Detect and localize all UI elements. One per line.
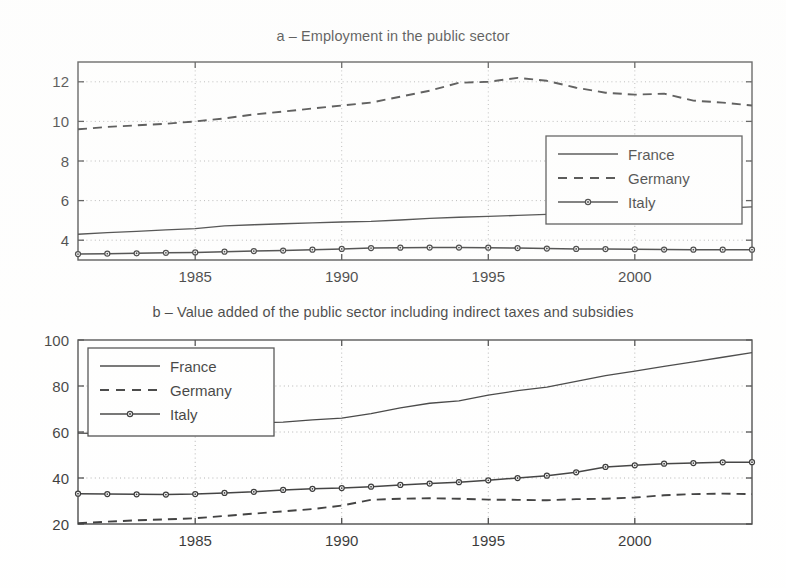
x-tick-label: 1995 [472, 532, 505, 549]
series-marker-dot [253, 491, 255, 493]
panel-b-svg: 204060801001985199019952000FranceGermany… [0, 326, 786, 576]
series-marker-dot [370, 486, 372, 488]
series-marker-dot [692, 462, 694, 464]
series-marker-dot [575, 471, 577, 473]
panel-b-plot: 204060801001985199019952000FranceGermany… [0, 326, 786, 576]
series-marker-dot [106, 493, 108, 495]
series-marker-dot [282, 489, 284, 491]
legend: FranceGermanyItaly [88, 348, 274, 436]
series-marker-dot [399, 247, 401, 249]
series-marker-dot [194, 493, 196, 495]
series-marker-dot [517, 477, 519, 479]
figure-container: a – Employment in the public sector 4681… [0, 0, 786, 588]
y-tick-label: 4 [61, 232, 69, 249]
series-marker-dot [282, 250, 284, 252]
y-tick-label: 6 [61, 192, 69, 209]
series-marker-dot [312, 488, 314, 490]
legend-label-germany: Germany [628, 170, 690, 187]
series-marker-dot [341, 248, 343, 250]
panel-b-title: b – Value added of the public sector inc… [0, 304, 786, 320]
series-marker-dot [429, 483, 431, 485]
x-tick-label: 2000 [618, 268, 651, 285]
series-marker-dot [165, 252, 167, 254]
y-tick-label: 8 [61, 153, 69, 170]
series-marker-dot [546, 248, 548, 250]
x-tick-label: 1990 [325, 532, 358, 549]
y-tick-label: 100 [44, 332, 69, 349]
series-marker-dot [136, 493, 138, 495]
series-marker-dot [136, 252, 138, 254]
x-tick-label: 1985 [179, 268, 212, 285]
legend: FranceGermanyItaly [546, 136, 742, 224]
y-tick-label: 80 [52, 378, 69, 395]
x-tick-label: 2000 [618, 532, 651, 549]
legend-label-italy: Italy [170, 406, 198, 423]
y-tick-label: 60 [52, 424, 69, 441]
series-line-italy [78, 248, 752, 255]
series-marker-dot [312, 249, 314, 251]
series-marker-dot [224, 251, 226, 253]
series-marker-dot [458, 247, 460, 249]
series-marker-dot [751, 249, 753, 251]
series-marker-dot [722, 461, 724, 463]
series-marker-dot [165, 494, 167, 496]
series-marker-dot [106, 253, 108, 255]
legend-label-france: France [170, 358, 217, 375]
series-marker-dot [663, 249, 665, 251]
series-marker-dot [341, 487, 343, 489]
x-tick-label: 1990 [325, 268, 358, 285]
y-tick-label: 20 [52, 516, 69, 533]
panel-a-svg: 46810121985199019952000FranceGermanyItal… [0, 48, 786, 288]
series-marker-dot [546, 475, 548, 477]
series-marker-dot [634, 464, 636, 466]
series-marker-dot [399, 484, 401, 486]
series-marker-dot [429, 247, 431, 249]
legend-label-france: France [628, 146, 675, 163]
series-marker-dot [224, 492, 226, 494]
chart-panel-a: a – Employment in the public sector 4681… [0, 14, 786, 294]
series-marker-dot [253, 250, 255, 252]
legend-label-italy: Italy [628, 194, 656, 211]
series-marker-dot [458, 481, 460, 483]
series-marker-dot [605, 248, 607, 250]
series-marker-dot [487, 479, 489, 481]
series-marker-dot [77, 253, 79, 255]
y-tick-label: 10 [52, 113, 69, 130]
legend-marker-dot [587, 201, 589, 203]
panel-a-title: a – Employment in the public sector [0, 28, 786, 44]
panel-a-plot: 46810121985199019952000FranceGermanyItal… [0, 48, 786, 288]
series-marker-dot [634, 248, 636, 250]
series-marker-dot [77, 493, 79, 495]
chart-panel-b: b – Value added of the public sector inc… [0, 296, 786, 576]
series-line-germany [78, 494, 752, 524]
x-tick-label: 1985 [179, 532, 212, 549]
series-marker-dot [370, 247, 372, 249]
x-tick-label: 1995 [472, 268, 505, 285]
series-marker-dot [194, 252, 196, 254]
series-marker-dot [517, 247, 519, 249]
y-tick-label: 12 [52, 73, 69, 90]
series-marker-dot [487, 247, 489, 249]
series-marker-dot [663, 463, 665, 465]
series-marker-dot [575, 248, 577, 250]
legend-label-germany: Germany [170, 382, 232, 399]
legend-marker-dot [129, 413, 131, 415]
y-tick-label: 40 [52, 470, 69, 487]
series-marker-dot [692, 249, 694, 251]
series-marker-dot [605, 466, 607, 468]
series-marker-dot [722, 249, 724, 251]
series-marker-dot [751, 461, 753, 463]
